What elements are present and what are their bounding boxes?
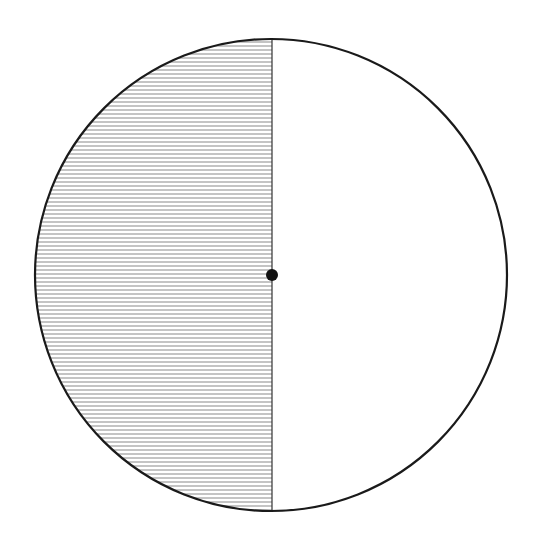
center-point [266,269,278,281]
half-shaded-circle-diagram [0,0,544,546]
